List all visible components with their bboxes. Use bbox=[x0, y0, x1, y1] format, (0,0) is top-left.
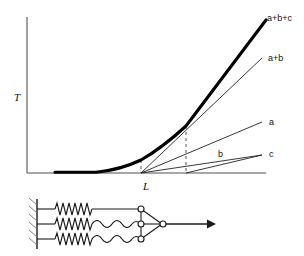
wall-hatch-marks bbox=[29, 198, 37, 245]
curve-label-b: b bbox=[218, 150, 223, 159]
junction-node-middle bbox=[138, 221, 144, 227]
thick-curve-path bbox=[55, 20, 266, 172]
line-a-plus-b bbox=[141, 58, 262, 173]
line-c bbox=[186, 155, 262, 173]
curve-label-c: c bbox=[269, 150, 274, 159]
curve-label-a: a bbox=[269, 118, 274, 127]
junction-node-bottom bbox=[138, 236, 144, 242]
force-arrow-head bbox=[207, 220, 216, 229]
branch-middle-damper-wave bbox=[92, 221, 141, 228]
junction-link-top bbox=[141, 209, 162, 224]
schematic-wall bbox=[29, 198, 37, 249]
schematic-output-arrow bbox=[166, 220, 216, 229]
branch-bottom-spring-icon bbox=[55, 233, 92, 245]
schematic-branch-top bbox=[37, 203, 141, 215]
junction-node-top bbox=[138, 206, 144, 212]
line-b bbox=[141, 155, 262, 173]
junction-link-bottom bbox=[141, 224, 162, 239]
schematic-junction bbox=[138, 206, 166, 242]
y-axis-label: T bbox=[14, 92, 20, 103]
curve-a-plus-b-plus-c bbox=[55, 20, 266, 172]
figure-canvas bbox=[0, 0, 304, 256]
schematic-branch-middle bbox=[37, 218, 141, 230]
branch-middle-spring-icon bbox=[55, 218, 92, 230]
x-axis-label: L bbox=[143, 181, 149, 192]
component-lines bbox=[141, 58, 262, 173]
branch-bottom-damper-wave bbox=[92, 236, 141, 243]
curve-label-a-plus-b: a+b bbox=[268, 54, 283, 63]
schematic-branch-bottom bbox=[37, 233, 141, 245]
branch-top-spring-icon bbox=[55, 203, 92, 215]
junction-node-output bbox=[160, 221, 166, 227]
curve-label-a-plus-b-plus-c: a+b+c bbox=[267, 14, 292, 23]
chart-axes bbox=[27, 17, 266, 173]
figure-page: T L a+b+c a+b a b c bbox=[0, 0, 304, 256]
